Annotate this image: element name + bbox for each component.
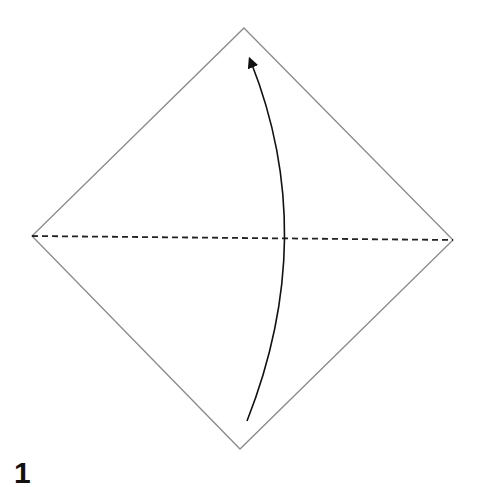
- step-number: 1: [14, 458, 31, 487]
